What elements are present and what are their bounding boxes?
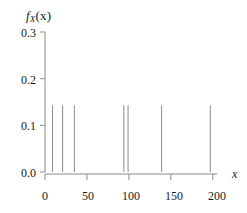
x-axis-ticks	[45, 174, 213, 180]
data-spikes	[53, 105, 211, 172]
chart-canvas	[0, 0, 247, 213]
probability-mass-function-chart: fX(x) x 0.3 0.2 0.1 0.0 0 50 100 150 200	[0, 0, 247, 213]
y-axis-ticks	[40, 32, 45, 172]
